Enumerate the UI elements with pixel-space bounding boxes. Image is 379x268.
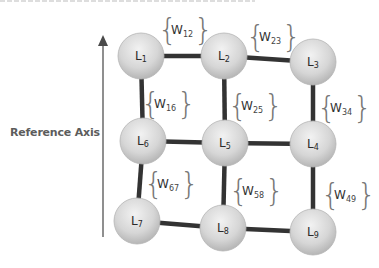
node-l2: L2 (201, 33, 247, 79)
weight-label-w23: {W23} (246, 19, 301, 54)
weight-label-w49: {W49} (321, 177, 376, 212)
right-brace-icon: } (357, 177, 376, 212)
right-brace-icon: } (177, 86, 196, 121)
arrow-up-icon (98, 35, 108, 46)
weight-label-w25: {W25} (228, 88, 283, 123)
right-brace-icon: } (353, 90, 372, 125)
weight-text: W67 (157, 177, 179, 193)
weight-label-w16: {W16} (141, 86, 196, 121)
node-l8: L8 (200, 205, 246, 251)
node-l9: L9 (290, 209, 336, 255)
node-l3: L3 (290, 39, 336, 85)
node-l5: L5 (202, 120, 248, 166)
reference-axis-label: Reference Axis (10, 126, 100, 139)
node-l6: L6 (120, 118, 166, 164)
node-l4: L4 (290, 121, 336, 167)
weight-label-w34: {W34} (317, 90, 372, 125)
weight-text: W16 (154, 97, 176, 113)
weight-label-w12: {W12} (158, 12, 213, 47)
right-brace-icon: } (265, 173, 284, 208)
weight-label-w58: {W58} (229, 173, 284, 208)
weight-text: W12 (171, 23, 193, 39)
weight-text: W49 (334, 188, 356, 204)
weight-text: W34 (330, 101, 352, 117)
nodes-layer: L1L2L3L4L5L6L7L8L9 (114, 33, 336, 255)
weight-text: W25 (241, 99, 263, 115)
weights-layer: {W12}{W23}{W16}{W25}{W34}{W67}{W58}{W49} (141, 12, 376, 212)
right-brace-icon: } (180, 166, 199, 201)
weight-text: W58 (242, 184, 264, 200)
weight-label-w67: {W67} (144, 166, 199, 201)
weight-text: W23 (259, 30, 281, 46)
node-l7: L7 (114, 198, 160, 244)
right-brace-icon: } (264, 88, 283, 123)
node-l1: L1 (118, 33, 164, 79)
